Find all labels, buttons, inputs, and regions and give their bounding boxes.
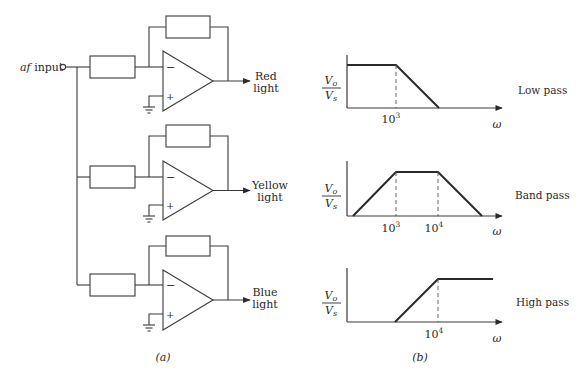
inverting-input-label: − xyxy=(166,171,175,184)
inverting-input-label: − xyxy=(166,279,175,292)
x-axis-label: ω xyxy=(493,118,502,131)
x-axis-label: ω xyxy=(493,225,502,238)
input-label: af input xyxy=(20,61,64,74)
op-amp-icon xyxy=(163,161,213,220)
filter-stage-red: − + Red light xyxy=(90,16,279,113)
tick-label: 103 xyxy=(382,220,401,235)
svg-text:Vo: Vo xyxy=(325,182,338,196)
plot-title: High pass xyxy=(516,296,569,308)
noninverting-input-label: + xyxy=(166,200,174,211)
svg-text:Vs: Vs xyxy=(325,89,337,103)
tick-label: 103 xyxy=(382,111,401,126)
tick-label: 104 xyxy=(425,326,444,341)
part-a-caption: (a) xyxy=(155,351,170,364)
y-axis-label: Vo Vs xyxy=(322,289,341,318)
y-axis-label: Vo Vs xyxy=(322,182,341,211)
ground-icon xyxy=(143,325,155,331)
noninverting-input-label: + xyxy=(166,91,174,102)
response-curve xyxy=(347,65,439,108)
filter-stage-yellow: − + Yellow light xyxy=(77,125,289,222)
plot-band-pass: Vo Vs 103 104 ω Band pass xyxy=(322,161,570,238)
tick-label: 104 xyxy=(425,220,444,235)
input-resistor xyxy=(90,166,135,188)
ground-icon xyxy=(143,107,155,113)
plot-title: Low pass xyxy=(518,84,567,96)
figure: af input − + Red light xyxy=(0,0,578,378)
plot-high-pass: Vo Vs 104 ω High pass xyxy=(322,268,569,345)
input-resistor xyxy=(90,56,135,78)
svg-text:Vs: Vs xyxy=(325,197,337,211)
filter-stage-blue: − + Blue light xyxy=(77,236,278,331)
svg-text:Vs: Vs xyxy=(325,304,337,318)
plot-title: Band pass xyxy=(515,189,570,201)
noninverting-input-label: + xyxy=(166,309,174,320)
feedback-resistor xyxy=(166,236,210,256)
ground-icon xyxy=(143,216,155,222)
response-curve xyxy=(353,172,482,216)
output-label-line2: light xyxy=(253,82,279,95)
circuit-diagram: af input − + Red light xyxy=(20,16,289,364)
y-axis-label: Vo Vs xyxy=(322,74,341,103)
response-curve xyxy=(395,279,493,322)
inverting-input-label: − xyxy=(166,61,175,74)
x-axis-label: ω xyxy=(493,332,502,345)
output-label-line2: light xyxy=(257,191,283,204)
output-label-line2: light xyxy=(252,298,278,311)
svg-text:Vo: Vo xyxy=(325,289,338,303)
feedback-resistor xyxy=(166,16,210,38)
plot-low-pass: Vo Vs 103 ω Low pass xyxy=(322,55,567,131)
part-b-caption: (b) xyxy=(412,351,428,364)
frequency-response-plots: Vo Vs 103 ω Low pass Vo Vs 103 104 ω Ban… xyxy=(322,55,570,364)
input-resistor xyxy=(90,274,135,296)
op-amp-icon xyxy=(163,51,213,111)
svg-text:Vo: Vo xyxy=(325,74,338,88)
feedback-resistor xyxy=(166,125,210,147)
input-terminal-icon xyxy=(60,64,65,69)
